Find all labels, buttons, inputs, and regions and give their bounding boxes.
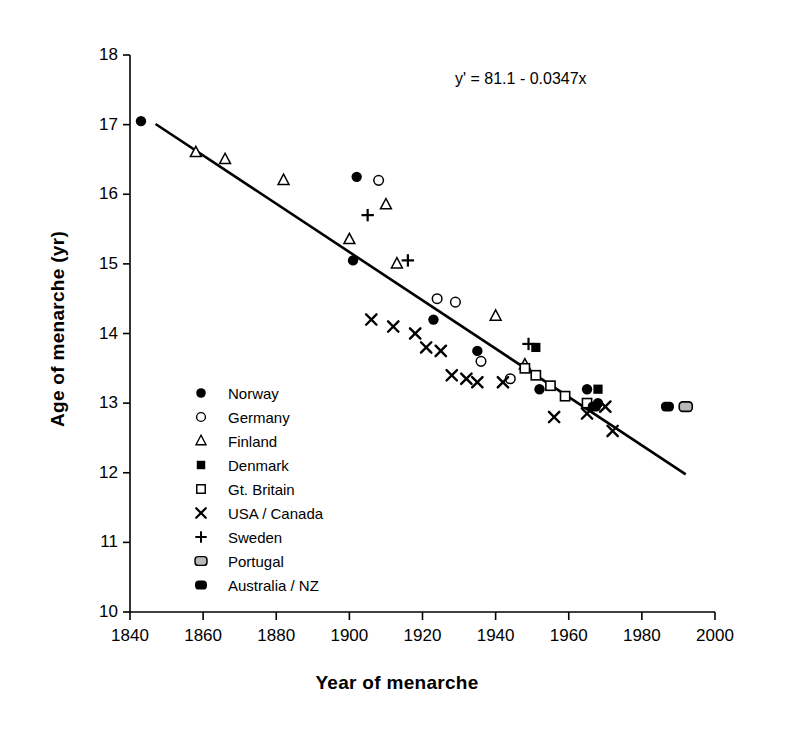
x-tick-label: 2000 xyxy=(696,626,734,646)
data-point xyxy=(593,385,602,394)
data-point xyxy=(447,370,457,380)
series-usa-canada xyxy=(366,314,618,436)
data-point xyxy=(588,402,601,412)
filled-circle-icon xyxy=(188,383,214,403)
data-point xyxy=(490,310,501,320)
data-point xyxy=(428,314,438,324)
series-gt-britain xyxy=(520,364,591,408)
legend-item-label: Denmark xyxy=(214,457,289,474)
legend-item[interactable]: Portugal xyxy=(188,549,323,573)
filled-square-icon xyxy=(188,455,214,475)
data-point xyxy=(472,346,482,356)
data-point xyxy=(388,321,398,331)
regression-equation-annotation: y' = 81.1 - 0.0347x xyxy=(455,70,587,88)
legend-item[interactable]: Norway xyxy=(188,381,323,405)
legend-item[interactable]: Sweden xyxy=(188,525,323,549)
data-point xyxy=(549,412,559,422)
y-axis-title: Age of menarche (yr) xyxy=(47,119,69,539)
legend-item-label: Germany xyxy=(214,409,290,426)
data-point xyxy=(410,328,420,338)
data-point xyxy=(220,153,231,163)
legend-marker-glyph xyxy=(195,531,206,542)
scatter-plot-canvas xyxy=(0,0,794,732)
legend-item-label: Portugal xyxy=(214,553,284,570)
legend-item[interactable]: USA / Canada xyxy=(188,501,323,525)
data-point xyxy=(278,174,289,184)
y-tick-label: 17 xyxy=(82,115,118,135)
legend-item[interactable]: Germany xyxy=(188,405,323,429)
legend-item-label: Sweden xyxy=(214,529,282,546)
data-point xyxy=(421,342,431,352)
legend-item-label: Gt. Britain xyxy=(214,481,295,498)
y-tick-label: 18 xyxy=(82,45,118,65)
plus-icon xyxy=(188,527,214,547)
x-tick-label: 1920 xyxy=(404,626,442,646)
data-point xyxy=(366,314,376,324)
y-tick-label: 12 xyxy=(82,463,118,483)
data-point xyxy=(361,209,373,221)
y-tick-label: 13 xyxy=(82,393,118,413)
legend-marker-glyph xyxy=(196,508,206,518)
x-tick-label: 1880 xyxy=(257,626,295,646)
filled-rounded-rect-icon xyxy=(188,575,214,595)
chart-legend: NorwayGermanyFinlandDenmarkGt. BritainUS… xyxy=(188,381,323,597)
legend-item[interactable]: Denmark xyxy=(188,453,323,477)
legend-item-label: USA / Canada xyxy=(214,505,323,522)
y-tick-label: 10 xyxy=(82,602,118,622)
data-point xyxy=(136,116,146,126)
legend-marker-glyph xyxy=(196,388,206,398)
data-point xyxy=(374,176,384,186)
x-tick-label: 1940 xyxy=(477,626,515,646)
data-point xyxy=(560,392,569,401)
open-square-icon xyxy=(188,479,214,499)
y-tick-label: 11 xyxy=(82,532,118,552)
legend-marker-glyph xyxy=(196,435,206,444)
data-point xyxy=(461,374,471,384)
x-tick-label: 1840 xyxy=(111,626,149,646)
data-point xyxy=(344,233,355,243)
x-tick-label: 1860 xyxy=(184,626,222,646)
data-point xyxy=(546,381,555,390)
legend-item[interactable]: Finland xyxy=(188,429,323,453)
grey-rounded-rect-icon xyxy=(188,551,214,571)
data-point xyxy=(436,346,446,356)
legend-marker-glyph xyxy=(195,557,207,566)
data-point xyxy=(432,294,442,304)
data-point xyxy=(679,402,692,412)
data-point xyxy=(451,297,461,307)
series-portugal xyxy=(679,402,692,412)
data-point xyxy=(391,258,402,268)
data-point xyxy=(661,402,674,412)
x-tick-label: 1960 xyxy=(550,626,588,646)
data-point xyxy=(582,384,592,394)
x-tick-label: 1980 xyxy=(623,626,661,646)
open-circle-icon xyxy=(188,407,214,427)
legend-item-label: Norway xyxy=(214,385,279,402)
data-point xyxy=(476,357,486,367)
data-point xyxy=(351,172,361,182)
data-point xyxy=(348,255,358,265)
x-axis-title: Year of menarche xyxy=(0,672,794,694)
legend-marker-glyph xyxy=(197,485,205,493)
legend-item[interactable]: Australia / NZ xyxy=(188,573,323,597)
legend-marker-glyph xyxy=(195,580,207,589)
series-germany xyxy=(374,176,515,384)
data-point xyxy=(472,377,482,387)
legend-marker-glyph xyxy=(197,461,205,469)
data-point xyxy=(402,254,414,266)
data-point xyxy=(531,371,540,380)
legend-item-label: Australia / NZ xyxy=(214,577,319,594)
legend-item-label: Finland xyxy=(214,433,277,450)
legend-item[interactable]: Gt. Britain xyxy=(188,477,323,501)
series-sweden xyxy=(361,209,534,350)
y-tick-label: 14 xyxy=(82,324,118,344)
cross-x-icon xyxy=(188,503,214,523)
y-tick-label: 15 xyxy=(82,254,118,274)
open-triangle-icon xyxy=(188,431,214,451)
y-tick-label: 16 xyxy=(82,184,118,204)
data-point xyxy=(534,384,544,394)
x-tick-label: 1900 xyxy=(330,626,368,646)
data-point xyxy=(380,198,391,208)
data-point xyxy=(520,364,529,373)
series-norway xyxy=(136,116,603,408)
